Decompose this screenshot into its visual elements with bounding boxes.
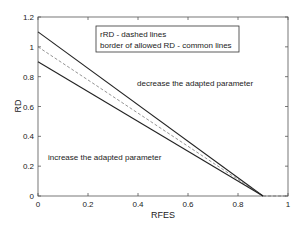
- x-tick-label: 0.8: [232, 200, 244, 209]
- y-tick-label: 0.8: [23, 73, 35, 82]
- x-tick-label: 0.4: [132, 200, 144, 209]
- x-tick-label: 0.6: [182, 200, 194, 209]
- chart: 00.20.40.60.8100.20.40.60.811.2 rRD - da…: [0, 0, 304, 228]
- annotation-increase: increase the adapted parameter: [48, 153, 162, 162]
- y-tick-label: 1: [30, 43, 35, 52]
- legend-line-2: border of allowed RD - common lines: [100, 41, 232, 50]
- annotation-decrease: decrease the adapted parameter: [137, 79, 253, 88]
- y-tick-label: 1.2: [23, 13, 35, 22]
- y-tick-label: 0.4: [23, 132, 35, 141]
- legend-line-1: rRD - dashed lines: [100, 30, 166, 39]
- data-lines: [38, 32, 288, 196]
- x-axis-label: RFES: [151, 210, 175, 220]
- series-line: [38, 47, 288, 196]
- x-tick-label: 0: [36, 200, 41, 209]
- y-tick-label: 0.6: [23, 103, 35, 112]
- series-line: [38, 32, 263, 196]
- y-tick-label: 0: [30, 192, 35, 201]
- y-axis-label: RD: [13, 99, 23, 112]
- x-tick-label: 1: [286, 200, 291, 209]
- y-tick-label: 0.2: [23, 162, 35, 171]
- x-tick-label: 0.2: [82, 200, 94, 209]
